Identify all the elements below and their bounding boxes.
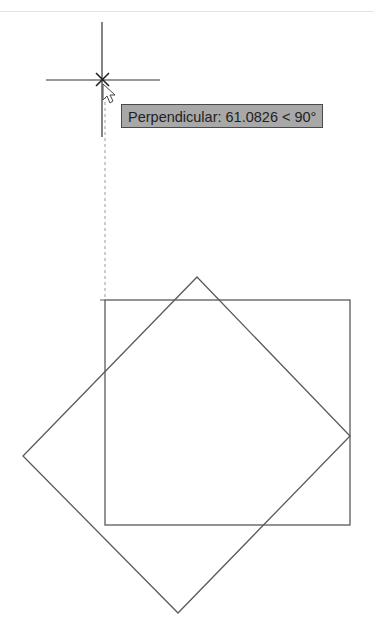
snap-tooltip: Perpendicular: 61.0826 < 90° xyxy=(121,104,323,128)
diamond-shape[interactable] xyxy=(23,277,350,613)
drawing-canvas[interactable] xyxy=(0,0,374,644)
arrow-pointer-icon xyxy=(103,84,115,103)
